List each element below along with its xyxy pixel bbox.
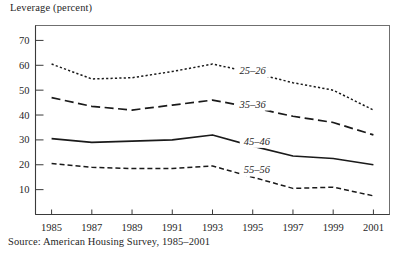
y-tick-label: 20 bbox=[19, 159, 30, 170]
series-label: 35–36 bbox=[239, 99, 267, 110]
x-tick-label: 1989 bbox=[122, 222, 143, 233]
series-line-55-56 bbox=[52, 164, 374, 196]
x-tick-label: 1991 bbox=[162, 222, 183, 233]
series-label: 45–46 bbox=[244, 136, 271, 147]
x-tick-label: 1993 bbox=[202, 222, 223, 233]
x-tick-label: 1997 bbox=[282, 222, 303, 233]
y-tick-label: 60 bbox=[19, 60, 30, 71]
x-axis-ticks bbox=[52, 210, 374, 215]
x-tick-label: 1987 bbox=[81, 222, 102, 233]
series-line-35-36 bbox=[52, 98, 374, 135]
series-line-25-26 bbox=[52, 64, 374, 110]
y-tick-label: 30 bbox=[19, 134, 30, 145]
y-tick-label: 50 bbox=[19, 85, 30, 96]
line-chart: 10203040506070 1985198719891991199319951… bbox=[0, 0, 406, 256]
y-axis-ticks bbox=[36, 40, 44, 189]
y-axis-labels: 10203040506070 bbox=[19, 35, 30, 195]
plot-frame bbox=[36, 26, 390, 215]
figure-container: Leverage (percent) 10203040506070 198519… bbox=[0, 0, 406, 256]
y-tick-label: 10 bbox=[19, 184, 30, 195]
x-tick-label: 2001 bbox=[363, 222, 384, 233]
x-tick-label: 1995 bbox=[242, 222, 263, 233]
series-label: 55–56 bbox=[244, 164, 271, 175]
x-tick-label: 1985 bbox=[41, 222, 62, 233]
data-series-group bbox=[52, 64, 374, 196]
x-tick-label: 1999 bbox=[323, 222, 344, 233]
source-note: Source: American Housing Survey, 1985–20… bbox=[8, 236, 210, 247]
x-axis-labels: 198519871989199119931995199719992001 bbox=[41, 222, 384, 233]
series-label: 25–26 bbox=[240, 65, 267, 76]
series-line-45-46 bbox=[52, 135, 374, 165]
series-label-group: 25–2635–3645–4655–56 bbox=[236, 65, 274, 176]
y-tick-label: 70 bbox=[19, 35, 30, 46]
y-tick-label: 40 bbox=[19, 110, 30, 121]
